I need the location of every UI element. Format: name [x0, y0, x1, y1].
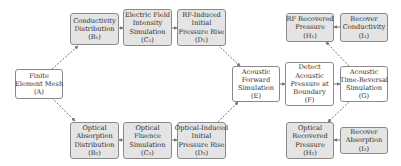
node-label: Simulation	[238, 84, 274, 92]
node-detect-acoustic-pressure: Detect Acoustic Pressure at Boundary (F)	[285, 62, 334, 106]
node-recover-absorption: Recover Absorption (I₂)	[340, 127, 388, 154]
node-label: Acoustic	[242, 68, 271, 76]
node-label: Intensity	[133, 19, 163, 27]
node-label: Fluence	[134, 132, 161, 140]
node-optical-induced-pressure-rise: Optical-Induced Initial Pressure Rise (D…	[177, 122, 226, 159]
node-rf-recovered-pressure: RF Recovered Pressure (H₁)	[286, 13, 334, 42]
node-finite-element-mesh: Finite Element Mesh (A)	[15, 69, 63, 99]
node-rf-induced-pressure-rise: RF-Induced Initial Pressure Rise (D₁)	[177, 9, 226, 46]
node-label: Pressure Rise	[178, 141, 224, 149]
node-label: (B₁)	[88, 33, 101, 41]
node-label: Simulation	[346, 84, 382, 92]
node-optical-fluence-simulation: Optical Fluence Simulation (C₂)	[123, 122, 172, 159]
node-label: Detect	[298, 63, 320, 71]
node-label: RF Recovered	[286, 15, 333, 23]
node-label: Distribution	[74, 25, 114, 33]
node-label: (H₂)	[303, 149, 317, 157]
node-conductivity-distribution: Conductivity Distribution (B₁)	[70, 13, 119, 45]
node-label: Simulation	[129, 28, 165, 36]
node-label: (C₁)	[141, 36, 154, 44]
node-label: Distribution	[74, 141, 114, 149]
node-label: Simulation	[129, 141, 165, 149]
node-label: Acoustic	[350, 68, 379, 76]
node-label: RF-Induced	[182, 11, 221, 19]
node-label: Pressure at	[290, 80, 328, 88]
node-label: Boundary	[293, 88, 325, 96]
node-label: Electric Field	[125, 11, 170, 19]
node-optical-absorption-distribution: Optical Absorption Distribution (B₂)	[70, 122, 119, 159]
node-label: (B₂)	[88, 149, 101, 157]
edge-A-B2	[52, 98, 75, 121]
node-recover-conductivity: Recover Conductivity (I₁)	[340, 13, 388, 42]
edge-D2-E	[218, 102, 238, 122]
node-label: Initial	[192, 19, 212, 27]
node-label: Time-Reversal	[340, 76, 388, 84]
node-label: Acoustic	[295, 72, 324, 80]
node-label: Optical-Induced	[175, 124, 228, 132]
edge-A-B1	[52, 46, 78, 69]
node-label: (H₁)	[303, 32, 317, 40]
node-label: Finite	[29, 72, 49, 80]
node-label: (F)	[305, 96, 315, 104]
node-label: Forward	[242, 76, 270, 84]
node-electric-field-simulation: Electric Field Intensity Simulation (C₁)	[123, 9, 172, 46]
node-acoustic-forward-simulation: Acoustic Forward Simulation (E)	[232, 66, 280, 102]
node-label: (C₂)	[141, 149, 154, 157]
node-label: (D₁)	[195, 36, 208, 44]
node-label: Initial	[192, 132, 212, 140]
node-label: (G)	[359, 92, 369, 100]
node-label: Pressure	[295, 23, 325, 31]
edge-D1-E	[218, 45, 240, 66]
node-label: (I₂)	[359, 145, 369, 153]
node-label: (E)	[251, 92, 261, 100]
node-label: Pressure Rise	[178, 28, 224, 36]
node-label: Absorption	[76, 132, 113, 140]
node-label: Optical	[298, 124, 322, 132]
node-label: Absorption	[346, 136, 383, 144]
node-label: (D₂)	[195, 149, 208, 157]
node-label: (I₁)	[359, 32, 369, 40]
node-label: Recover	[350, 128, 377, 136]
node-label: Recovered	[292, 132, 327, 140]
node-label: (A)	[34, 88, 44, 96]
node-label: Conductivity	[343, 23, 385, 31]
node-label: Conductivity	[73, 17, 115, 25]
node-label: Element Mesh	[15, 80, 63, 88]
node-label: Pressure	[295, 141, 325, 149]
node-label: Recover	[350, 15, 377, 23]
node-acoustic-time-reversal: Acoustic Time-Reversal Simulation (G)	[340, 66, 388, 102]
node-label: Optical	[135, 124, 159, 132]
node-optical-recovered-pressure: Optical Recovered Pressure (H₂)	[286, 122, 334, 159]
node-label: Optical	[82, 124, 106, 132]
